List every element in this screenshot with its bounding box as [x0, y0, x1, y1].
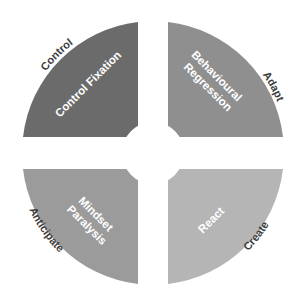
quadrant-top-left	[23, 22, 138, 137]
quadrant-diagram: Control Fixation Behavioural Regression …	[0, 0, 298, 299]
